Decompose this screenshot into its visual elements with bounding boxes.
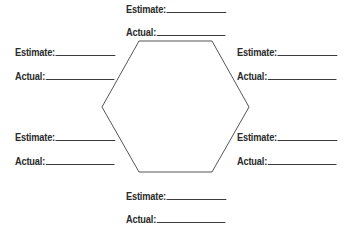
estimate-blank-line[interactable] <box>167 11 227 13</box>
actual-label: Actual: <box>237 70 267 82</box>
upper-right-estimate-field[interactable]: Estimate: <box>237 44 338 58</box>
upper-left-estimate-field[interactable]: Estimate: <box>15 44 116 58</box>
actual-label: Actual: <box>15 155 45 167</box>
top-estimate-field[interactable]: Estimate: <box>126 1 227 15</box>
estimate-label: Estimate: <box>15 46 55 58</box>
actual-label: Actual: <box>237 155 267 167</box>
estimate-label: Estimate: <box>126 190 166 202</box>
lower-right-estimate-field[interactable]: Estimate: <box>237 129 338 143</box>
actual-blank-line[interactable] <box>268 163 337 165</box>
actual-label: Actual: <box>126 26 156 38</box>
upper-right-actual-field[interactable]: Actual: <box>237 68 337 82</box>
actual-blank-line[interactable] <box>268 78 337 80</box>
bottom-actual-field[interactable]: Actual: <box>126 211 226 225</box>
estimate-blank-line[interactable] <box>278 139 338 141</box>
lower-left-actual-field[interactable]: Actual: <box>15 153 115 167</box>
estimate-blank-line[interactable] <box>278 54 338 56</box>
actual-blank-line[interactable] <box>46 78 115 80</box>
actual-blank-line[interactable] <box>157 34 226 36</box>
estimate-label: Estimate: <box>237 46 277 58</box>
lower-right-actual-field[interactable]: Actual: <box>237 153 337 167</box>
estimate-label: Estimate: <box>126 3 166 15</box>
top-actual-field[interactable]: Actual: <box>126 24 226 38</box>
estimate-blank-line[interactable] <box>167 198 227 200</box>
upper-left-actual-field[interactable]: Actual: <box>15 68 115 82</box>
actual-label: Actual: <box>126 213 156 225</box>
estimate-blank-line[interactable] <box>56 139 116 141</box>
actual-blank-line[interactable] <box>46 163 115 165</box>
lower-left-estimate-field[interactable]: Estimate: <box>15 129 116 143</box>
bottom-estimate-field[interactable]: Estimate: <box>126 188 227 202</box>
estimate-label: Estimate: <box>237 131 277 143</box>
actual-blank-line[interactable] <box>157 221 226 223</box>
actual-label: Actual: <box>15 70 45 82</box>
estimate-blank-line[interactable] <box>56 54 116 56</box>
estimate-label: Estimate: <box>15 131 55 143</box>
